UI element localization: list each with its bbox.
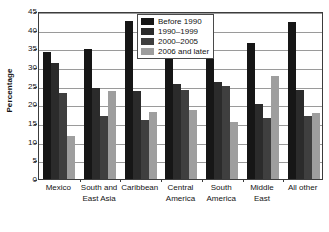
bar: [84, 49, 92, 179]
bar: [59, 93, 67, 179]
bar: [43, 52, 51, 179]
x-axis-category-line: America: [201, 193, 242, 204]
bar: [51, 63, 59, 179]
bar: [125, 21, 133, 179]
x-axis-category-label: All other: [282, 182, 323, 193]
bar-group: [80, 13, 121, 179]
x-axis-category-line: Central: [160, 182, 201, 193]
x-axis-category-label: CentralAmerica: [160, 182, 201, 204]
x-axis-category-label: Mexico: [38, 182, 79, 193]
y-axis-tick-mark: [34, 87, 37, 88]
legend-item: 2000–2005: [141, 37, 209, 46]
bar: [263, 118, 271, 179]
bar: [222, 86, 230, 179]
x-axis-category-label: SouthAmerica: [201, 182, 242, 204]
y-axis-tick-label: 0: [3, 176, 37, 184]
y-axis-tick-label: 10: [3, 139, 37, 147]
bar-chart-figure: Percentage 454035302520151050 MexicoSout…: [0, 0, 329, 232]
x-axis-category-line: East: [242, 193, 283, 204]
y-axis-tick-mark: [34, 124, 37, 125]
bar: [165, 58, 173, 179]
y-axis-tick-mark: [34, 31, 37, 32]
legend-item: 1990–1999: [141, 27, 209, 36]
bar: [255, 104, 263, 179]
x-axis-category-line: All other: [282, 182, 323, 193]
bar: [189, 110, 197, 179]
bar: [108, 91, 116, 179]
x-axis-category-line: South: [201, 182, 242, 193]
y-axis-tick-label: 45: [3, 8, 37, 16]
y-axis-tick-mark: [34, 161, 37, 162]
legend-label: 1990–1999: [158, 28, 198, 36]
y-axis-tick-label: 5: [3, 157, 37, 165]
bar: [149, 112, 157, 179]
y-axis-tick-marks: 454035302520151050: [0, 12, 37, 180]
legend-item: Before 1990: [141, 17, 209, 26]
legend-swatch: [141, 18, 154, 25]
bar: [92, 88, 100, 179]
y-axis-tick-label: 35: [3, 45, 37, 53]
x-axis-category-line: South and: [79, 182, 120, 193]
bar: [141, 120, 149, 179]
y-axis-tick-mark: [34, 68, 37, 69]
x-axis-category-line: East Asia: [79, 193, 120, 204]
x-axis-category-line: Caribbean: [119, 182, 160, 193]
y-axis-tick-label: 15: [3, 120, 37, 128]
x-axis-category-line: America: [160, 193, 201, 204]
y-axis-tick-label: 20: [3, 101, 37, 109]
y-axis-tick-label: 40: [3, 27, 37, 35]
x-axis-category-line: Mexico: [38, 182, 79, 193]
bar-group: [243, 13, 284, 179]
legend-swatch: [141, 38, 154, 45]
y-axis-tick-mark: [34, 105, 37, 106]
y-axis-tick-mark: [34, 143, 37, 144]
bar: [173, 84, 181, 179]
x-axis-category-label: Caribbean: [119, 182, 160, 193]
legend-swatch: [141, 48, 154, 55]
y-axis-tick-mark: [34, 49, 37, 50]
x-axis-category-label: South andEast Asia: [79, 182, 120, 204]
y-axis-tick-label: 25: [3, 83, 37, 91]
bar-group: [283, 13, 324, 179]
legend-label: Before 1990: [158, 18, 202, 26]
bar: [247, 43, 255, 179]
x-axis-labels: MexicoSouth andEast AsiaCaribbeanCentral…: [38, 182, 323, 222]
bar: [288, 22, 296, 179]
bar: [230, 122, 238, 179]
legend-label: 2006 and later: [158, 48, 209, 56]
bar: [100, 116, 108, 179]
bar: [296, 90, 304, 179]
bar: [133, 91, 141, 179]
bar: [312, 113, 320, 179]
bar: [214, 82, 222, 179]
x-axis-category-line: Middle: [242, 182, 283, 193]
bar: [67, 136, 75, 179]
bar-group: [39, 13, 80, 179]
bar: [206, 54, 214, 179]
y-axis-tick-mark: [34, 180, 37, 181]
y-axis-tick-mark: [34, 12, 37, 13]
bar: [304, 116, 312, 179]
y-axis-tick-label: 30: [3, 64, 37, 72]
chart-legend: Before 19901990–19992000–20052006 and la…: [137, 14, 214, 59]
x-axis-category-label: MiddleEast: [242, 182, 283, 204]
bar: [271, 76, 279, 179]
legend-swatch: [141, 28, 154, 35]
legend-item: 2006 and later: [141, 47, 209, 56]
bar: [181, 90, 189, 179]
legend-label: 2000–2005: [158, 38, 198, 46]
